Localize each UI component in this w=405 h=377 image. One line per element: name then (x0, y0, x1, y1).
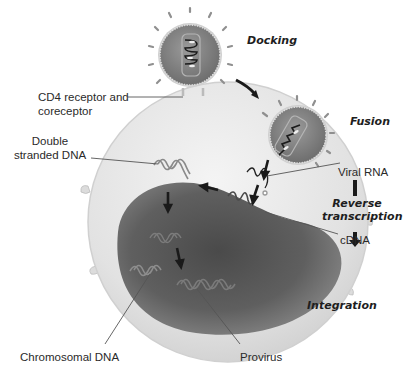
label-cd4-line1: CD4 receptor and (38, 90, 129, 104)
hiv-lifecycle-diagram (0, 0, 405, 377)
label-dsdna-line1: Double (10, 134, 90, 148)
label-double-stranded-dna: Double stranded DNA (10, 134, 90, 162)
stage-docking: Docking (247, 34, 297, 47)
label-cdna: cDNA (340, 233, 370, 247)
stage-reverse-transcription-line1: Reverse (322, 197, 392, 210)
label-provirus: Provirus (240, 350, 282, 364)
stage-integration: Integration (307, 299, 377, 312)
label-dsdna-line2: stranded DNA (10, 148, 90, 162)
stage-reverse-transcription: Reverse transcription (322, 197, 392, 223)
label-cd4-line2: coreceptor (38, 104, 129, 118)
label-cd4-receptor: CD4 receptor and coreceptor (38, 90, 129, 118)
label-viral-rna: Viral RNA (338, 165, 388, 179)
label-chromosomal-dna: Chromosomal DNA (20, 350, 119, 364)
stage-reverse-transcription-line2: transcription (322, 210, 392, 223)
stage-fusion: Fusion (350, 115, 390, 128)
